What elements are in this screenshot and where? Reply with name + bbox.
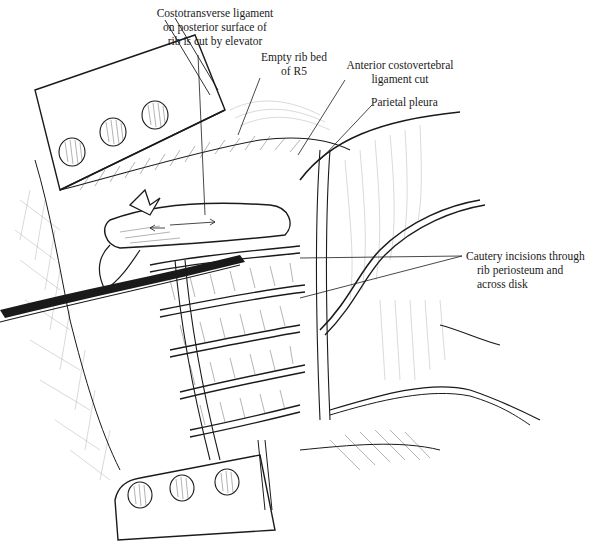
label-line: Cautery incisions through [466,249,585,263]
label-line: Anterior costovertebral [340,58,460,72]
label-costotransverse-ligament: Costotransverse ligament on posterior su… [140,6,290,48]
label-line: Empty rib bed [252,50,336,64]
label-line: rib periosteum and [466,263,585,277]
rib-cage-section [150,150,330,460]
label-anterior-costovertebral-ligament: Anterior costovertebral ligament cut [340,58,460,86]
label-line: across disk [466,277,585,291]
label-line: Parietal pleura [371,95,438,109]
label-line: on posterior surface of [140,20,290,34]
elevator-shaft [0,255,245,318]
label-line: rib is cut by elevator [140,34,290,48]
label-cautery-incisions: Cautery incisions through rib periosteum… [466,249,585,291]
lower-retractor [115,440,275,540]
lower-tissue-hatching [300,430,440,470]
label-parietal-pleura: Parietal pleura [371,95,438,109]
label-line: of R5 [252,64,336,78]
label-empty-rib-bed: Empty rib bed of R5 [252,50,336,78]
label-line: ligament cut [340,72,460,86]
label-line: Costotransverse ligament [140,6,290,20]
left-tissue-hatching [15,160,120,480]
